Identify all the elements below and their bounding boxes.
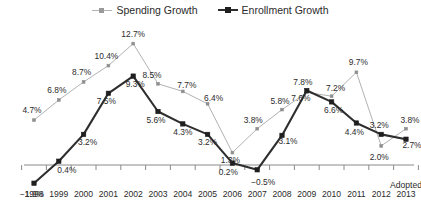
svg-text:0.4%: 0.4% (57, 165, 77, 175)
svg-text:12.7%: 12.7% (121, 29, 145, 39)
svg-text:2.0%: 2.0% (370, 152, 390, 162)
x-axis-tick-labels: 1998199920002001200220032004200520062007… (24, 180, 421, 199)
svg-text:9.3%: 9.3% (126, 79, 146, 89)
svg-text:2002: 2002 (124, 189, 143, 199)
svg-text:1998: 1998 (24, 189, 43, 199)
svg-text:6.6%: 6.6% (324, 105, 344, 115)
svg-text:1.3%: 1.3% (221, 155, 241, 165)
svg-text:4.3%: 4.3% (173, 127, 193, 137)
svg-text:8.7%: 8.7% (72, 67, 92, 77)
svg-text:3.1%: 3.1% (278, 136, 298, 146)
svg-text:7.2%: 7.2% (326, 83, 346, 93)
svg-text:3.2%: 3.2% (370, 120, 390, 130)
svg-text:7.6%: 7.6% (291, 93, 311, 103)
svg-text:Adopted: Adopted (390, 180, 421, 190)
svg-text:2000: 2000 (74, 189, 93, 199)
svg-text:4.4%: 4.4% (345, 127, 365, 137)
svg-text:4.7%: 4.7% (22, 105, 42, 115)
svg-text:3.8%: 3.8% (400, 115, 420, 125)
svg-text:2005: 2005 (198, 189, 217, 199)
chart-plot-area: 4.7%6.8%8.7%10.4%12.7%8.5%7.7%6.4%1.3%3.… (0, 0, 421, 218)
svg-text:0.2%: 0.2% (219, 167, 239, 177)
svg-text:2009: 2009 (297, 189, 316, 199)
svg-text:6.4%: 6.4% (204, 93, 224, 103)
svg-text:1999: 1999 (49, 189, 68, 199)
svg-text:2006: 2006 (223, 189, 242, 199)
svg-text:2012: 2012 (372, 189, 391, 199)
svg-text:6.8%: 6.8% (47, 85, 67, 95)
data-labels: 4.7%6.8%8.7%10.4%12.7%8.5%7.7%6.4%1.3%3.… (20, 29, 421, 200)
svg-text:2001: 2001 (99, 189, 118, 199)
svg-text:2011: 2011 (347, 189, 366, 199)
svg-text:2003: 2003 (148, 189, 167, 199)
svg-text:7.5%: 7.5% (97, 96, 117, 106)
svg-text:2007: 2007 (248, 189, 267, 199)
svg-text:7.8%: 7.8% (293, 77, 313, 87)
svg-text:3.8%: 3.8% (244, 115, 264, 125)
svg-text:2008: 2008 (272, 189, 291, 199)
svg-text:2.7%: 2.7% (402, 140, 421, 150)
svg-text:5.8%: 5.8% (270, 96, 290, 106)
svg-text:2013: 2013 (396, 189, 415, 199)
svg-text:3.2%: 3.2% (78, 137, 98, 147)
svg-text:10.4%: 10.4% (95, 51, 119, 61)
svg-text:−0.5%: −0.5% (251, 177, 276, 187)
svg-text:2004: 2004 (173, 189, 192, 199)
svg-text:9.7%: 9.7% (349, 57, 369, 67)
svg-text:8.5%: 8.5% (142, 70, 162, 80)
svg-text:7.7%: 7.7% (177, 80, 197, 90)
svg-text:3.2%: 3.2% (198, 137, 218, 147)
svg-text:2010: 2010 (322, 189, 341, 199)
svg-text:5.6%: 5.6% (146, 115, 166, 125)
chart-container: Spending Growth Enrollment Growth 4.7%6.… (0, 0, 421, 218)
